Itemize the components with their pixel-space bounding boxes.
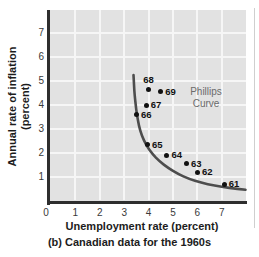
- gridline-horizontal-7: [50, 32, 246, 34]
- x-tick-label-4: 4: [141, 207, 157, 219]
- x-tick-label-1: 1: [67, 207, 83, 219]
- data-point-label-63: 63: [191, 158, 202, 170]
- data-point-68: [146, 87, 151, 92]
- y-axis-title: Annual rate of inflation (percent): [5, 28, 32, 186]
- x-axis-line: [47, 201, 247, 204]
- data-point-65: [145, 142, 150, 147]
- data-point-label-62: 62: [202, 166, 213, 178]
- gridline-horizontal-3: [50, 128, 246, 130]
- x-tick-label-5: 5: [165, 207, 181, 219]
- phillips-curve-label: Phillips Curve: [176, 86, 236, 109]
- x-tick-label-0: 0: [38, 207, 54, 219]
- phillips-curve-figure: 616263646566676869 012345671234567 Annua…: [0, 0, 259, 257]
- data-point-61: [222, 182, 227, 187]
- x-axis-title: Unemployment rate (percent): [38, 220, 246, 232]
- x-tick-label-2: 2: [92, 207, 108, 219]
- data-point-label-67: 67: [151, 99, 162, 111]
- gridline-horizontal-1: [50, 176, 246, 178]
- phillips-curve-label-line1: Phillips: [190, 86, 222, 97]
- data-point-66: [134, 112, 139, 117]
- data-point-label-65: 65: [152, 139, 163, 151]
- y-axis-title-line2: (percent): [18, 28, 31, 186]
- data-point-label-64: 64: [171, 149, 182, 161]
- data-point-label-69: 69: [165, 86, 176, 98]
- x-tick-label-3: 3: [116, 207, 132, 219]
- x-tick-label-7: 7: [214, 207, 230, 219]
- data-point-62: [195, 170, 200, 175]
- y-axis-title-line1: Annual rate of inflation: [5, 28, 18, 186]
- data-point-67: [144, 103, 149, 108]
- y-axis-line: [47, 10, 50, 205]
- data-point-label-61: 61: [229, 178, 240, 190]
- gridline-horizontal-6: [50, 56, 246, 58]
- figure-caption: (b) Canadian data for the 1960s: [0, 236, 259, 248]
- phillips-curve-label-line2: Curve: [193, 98, 220, 109]
- x-tick-label-6: 6: [189, 207, 205, 219]
- scan-edge-line: [254, 8, 256, 228]
- gridline-horizontal-2: [50, 152, 246, 154]
- data-point-label-68: 68: [139, 74, 159, 86]
